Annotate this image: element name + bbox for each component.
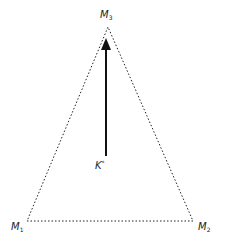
m3-base: M: [100, 9, 109, 20]
kstar-sup: *: [102, 159, 105, 166]
vertex-label-m1: M1: [11, 222, 23, 233]
m3-sub: 3: [109, 14, 113, 21]
arrow-origin-label-kstar: K*: [95, 160, 105, 171]
vertex-label-m2: M2: [198, 222, 210, 233]
triangle-edges: [27, 27, 193, 221]
arrow-head-icon: [101, 38, 111, 50]
vertex-label-m3: M3: [100, 10, 112, 21]
m2-sub: 2: [207, 226, 211, 233]
diagram-canvas: [0, 0, 225, 243]
m2-base: M: [198, 221, 207, 232]
m1-sub: 1: [20, 226, 24, 233]
m1-base: M: [11, 221, 20, 232]
